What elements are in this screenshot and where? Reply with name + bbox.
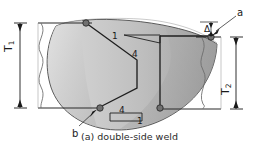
label-thickness-t2: T2 [220,84,231,96]
node-marker-icon-bottom-right [157,105,163,111]
weld-cross-section-figure [0,0,259,150]
label-slope-bottom-run: 4 [119,106,125,115]
label-callout-a: a [237,8,243,18]
dimension-t2 [230,37,243,109]
label-slope-top-run: 4 [132,50,138,59]
dimension-t1-arrow-bottom [17,100,22,108]
callout-a-leader-line [216,16,236,31]
dimension-t1 [14,23,27,108]
label-slope-top-rise: 1 [112,32,118,41]
callout-a [212,16,236,35]
dimension-t2-arrow-top [233,38,238,46]
dimension-t1-arrow-top [17,24,22,32]
node-marker-icon-bottom-left [97,105,103,111]
label-thickness-t1: T1 [3,41,14,53]
break-line-left-icon [39,23,43,108]
node-marker-icon-top-left [83,20,89,26]
label-slope-bottom-rise: 1 [137,117,143,126]
dimension-t2-arrow-bottom [233,101,238,109]
label-delta-offset: Δ [204,25,210,34]
figure-caption: (a) double-side weld [0,131,259,142]
